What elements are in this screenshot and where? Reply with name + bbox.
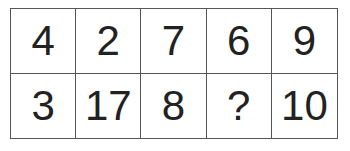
grid-cell-r2-c1: 3 (11, 74, 76, 139)
grid-cell-r1-c3: 7 (141, 9, 206, 74)
grid-cell-r1-c1: 4 (11, 9, 76, 74)
grid-cell-r2-c3: 8 (141, 74, 206, 139)
grid-cell-r2-c4-missing: ? (207, 74, 272, 139)
grid-cell-r1-c4: 6 (207, 9, 272, 74)
grid-cell-r1-c5: 9 (272, 9, 337, 74)
grid-cell-r1-c2: 2 (76, 9, 141, 74)
number-puzzle-grid: 4 2 7 6 9 3 17 8 ? 10 (10, 8, 338, 139)
grid-cell-r2-c2: 17 (76, 74, 141, 139)
grid-cell-r2-c5: 10 (272, 74, 337, 139)
